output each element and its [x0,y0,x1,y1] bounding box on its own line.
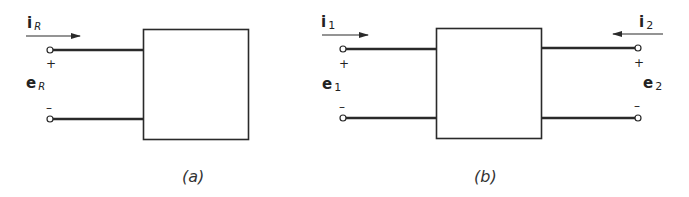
current-label-a: iR [27,14,41,32]
caption-b: (b) [474,167,497,186]
minus-sign-a: – [46,101,52,115]
panel-b-two-port: i1 + e1 – i2 + e2 – (b) [321,13,663,186]
current-label-2: i2 [639,13,653,32]
terminal-bottom-right-b [635,115,641,121]
terminal-top-right-b [635,45,641,51]
minus-sign-1: – [339,100,345,114]
terminal-bottom-a [47,116,53,122]
terminal-top-a [47,47,53,53]
network-diagram: iR + eR – (a) i1 + e1 – i2 + e2 – (b) [0,0,689,197]
minus-sign-2: – [634,99,640,113]
plus-sign-a: + [46,57,56,71]
plus-sign-2: + [634,56,644,70]
terminal-top-left-b [340,46,346,52]
current-label-1: i1 [321,13,335,32]
voltage-label-2: e2 [643,74,662,93]
network-box-b [437,29,542,139]
caption-a: (a) [182,167,204,186]
terminal-bottom-left-b [340,115,346,121]
network-box-a [144,30,249,140]
voltage-label-a: eR [26,74,45,92]
voltage-label-1: e1 [322,75,341,94]
panel-a-one-port: iR + eR – (a) [26,14,249,186]
plus-sign-1: + [339,57,349,71]
